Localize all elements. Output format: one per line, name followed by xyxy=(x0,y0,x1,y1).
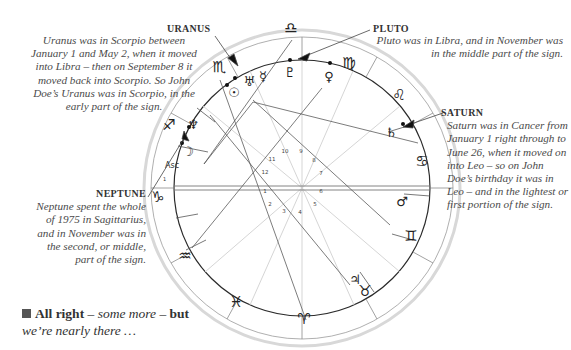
footer-bold: All right xyxy=(35,306,84,321)
sign-virgo-glyph: ♍ xyxy=(342,54,355,72)
footer-italic-2: we’re nearly there … xyxy=(22,323,136,338)
neptune-note-title: NEPTUNE xyxy=(28,187,146,200)
house-number-7: 7 xyxy=(319,170,323,176)
footer-caption: All right – some more – but we’re nearly… xyxy=(22,305,202,339)
house-number-2: 2 xyxy=(268,201,272,207)
sign-aries-glyph: ♈ xyxy=(297,310,310,328)
sign-leo-glyph: ♌ xyxy=(392,86,405,104)
planet-jupiter-glyph: ♃ xyxy=(349,272,361,287)
house-number-8: 8 xyxy=(312,157,316,163)
sign-cancer-glyph: ♋ xyxy=(415,152,428,170)
sign-libra-glyph: ♎ xyxy=(284,19,297,37)
sign-pisces-glyph: ♓ xyxy=(229,293,242,311)
house-number-5: 5 xyxy=(313,201,317,207)
saturn-note: SATURN Saturn was in Cancer from January… xyxy=(441,106,571,212)
sign-sagittarius-glyph: ♐ xyxy=(162,116,175,134)
house-number-3: 3 xyxy=(282,208,286,214)
ascendant-house-one: 1 xyxy=(163,176,166,182)
pluto-note: PLUTO Pluto was in Libra, and in Novembe… xyxy=(373,24,563,60)
house-number-1: 1 xyxy=(263,188,267,194)
house-number-4: 4 xyxy=(298,209,302,215)
ascendant-label: Asc xyxy=(165,161,179,170)
house-number-6: 6 xyxy=(319,188,323,194)
planet-moon-glyph: ☽ xyxy=(182,144,194,159)
neptune-note: NEPTUNE Neptune spent the whole of 1975 … xyxy=(28,187,146,266)
footer-bold-2: but xyxy=(170,306,190,321)
planet-pluto-glyph: ♇ xyxy=(284,65,296,80)
footer-dash-2: – xyxy=(156,306,170,321)
uranus-note-body: Uranus was in Scorpio between January 1 … xyxy=(30,24,198,113)
saturn-note-body: Saturn was in Cancer from January 1 righ… xyxy=(441,119,571,211)
planet-mercury-glyph: ☿ xyxy=(259,69,267,84)
sign-capricorn-glyph: ♑ xyxy=(151,188,164,206)
planet-neptune-glyph: ♆ xyxy=(187,117,199,132)
sign-scorpio-glyph: ♏ xyxy=(212,58,226,76)
bullet-square-icon xyxy=(22,309,31,318)
house-number-10: 10 xyxy=(282,148,289,154)
house-number-12: 12 xyxy=(262,169,269,175)
planet-saturn-glyph: ♄ xyxy=(385,125,397,140)
house-number-9: 9 xyxy=(299,148,303,154)
planet-mars-glyph: ♂ xyxy=(396,194,408,209)
neptune-note-body: Neptune spent the whole of 1975 in Sagit… xyxy=(28,200,146,266)
planet-uranus-glyph: ♅ xyxy=(243,74,255,89)
pluto-note-title: PLUTO xyxy=(373,22,409,35)
house-number-11: 11 xyxy=(269,156,276,162)
uranus-note-title: URANUS xyxy=(167,22,210,35)
footer-italic-1: some more xyxy=(98,306,156,321)
uranus-note: URANUS Uranus was in Scorpio between Jan… xyxy=(30,24,198,113)
planet-sun-glyph: ☉ xyxy=(228,85,240,100)
planet-venus-glyph: ♀ xyxy=(324,69,334,84)
sign-aquarius-glyph: ♒ xyxy=(178,247,191,265)
footer-dash-1: – xyxy=(84,306,98,321)
sign-gemini-glyph: ♊ xyxy=(404,227,417,245)
saturn-note-title: SATURN xyxy=(441,106,571,119)
